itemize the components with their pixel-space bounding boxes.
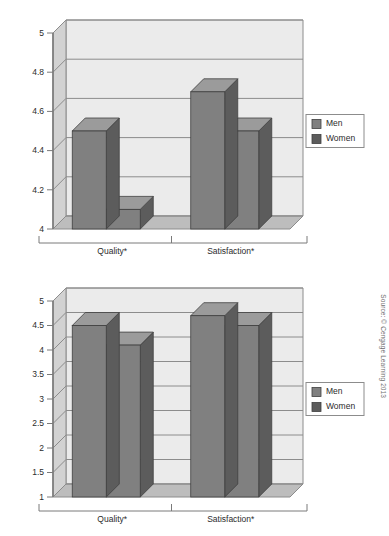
x-category-label: Quality* [97, 246, 127, 256]
chart-bottom: 11.522.533.544.55Quality*Satisfaction*Me… [0, 268, 389, 536]
y-tick-label: 5 [39, 28, 44, 38]
chart-bottom-plot: 11.522.533.544.55Quality*Satisfaction*Me… [32, 288, 364, 524]
bar-front-face [191, 316, 225, 497]
y-tick-label: 4.2 [32, 185, 44, 195]
bar-side-face [106, 118, 119, 229]
x-category-label: Satisfaction* [207, 514, 255, 524]
y-tick-label: 2.5 [32, 418, 44, 428]
chart-top-svg: 44.24.44.64.85Quality*Satisfaction*MenWo… [0, 0, 389, 268]
bar-side-face [225, 303, 238, 497]
y-tick-label: 5 [39, 296, 44, 306]
y-tick-label: 4 [39, 224, 44, 234]
bar-men-1 [191, 79, 238, 229]
bar-men-1 [191, 303, 238, 497]
bar-men-0 [72, 118, 119, 229]
y-tick-label: 4.5 [32, 320, 44, 330]
x-category-label: Quality* [97, 514, 127, 524]
men-swatch [312, 388, 321, 397]
women-swatch [312, 403, 321, 412]
y-tick-label: 4.4 [32, 145, 44, 155]
legend: MenWomen [306, 383, 364, 416]
bar-side-face [259, 313, 272, 498]
bar-side-face [259, 118, 272, 229]
bar-front-face [72, 326, 106, 498]
plot-left-wall [53, 20, 66, 229]
y-tick-label: 2 [39, 443, 44, 453]
legend: MenWomen [306, 115, 364, 148]
bar-men-0 [72, 313, 119, 498]
bar-front-face [72, 131, 106, 229]
y-tick-label: 4.8 [32, 67, 44, 77]
y-tick-label: 1 [39, 492, 44, 502]
bar-side-face [140, 332, 153, 497]
legend-label-men: Men [326, 118, 343, 128]
figure-two-bar-charts: 44.24.44.64.85Quality*Satisfaction*MenWo… [0, 0, 389, 536]
y-tick-label: 3.5 [32, 369, 44, 379]
legend-label-women: Women [326, 401, 355, 411]
y-tick-label: 4 [39, 345, 44, 355]
chart-top-plot: 44.24.44.64.85Quality*Satisfaction*MenWo… [32, 20, 364, 256]
source-note: Source: © Cengage Learning 2013 [380, 294, 387, 398]
bar-front-face [191, 92, 225, 229]
legend-label-men: Men [326, 386, 343, 396]
y-tick-label: 1.5 [32, 467, 44, 477]
bar-side-face [225, 79, 238, 229]
x-category-label: Satisfaction* [207, 246, 255, 256]
women-swatch [312, 135, 321, 144]
bar-side-face [106, 313, 119, 498]
y-tick-label: 4.6 [32, 106, 44, 116]
chart-top: 44.24.44.64.85Quality*Satisfaction*MenWo… [0, 0, 389, 268]
chart-bottom-svg: 11.522.533.544.55Quality*Satisfaction*Me… [0, 268, 389, 536]
y-tick-label: 3 [39, 394, 44, 404]
legend-label-women: Women [326, 133, 355, 143]
men-swatch [312, 120, 321, 129]
